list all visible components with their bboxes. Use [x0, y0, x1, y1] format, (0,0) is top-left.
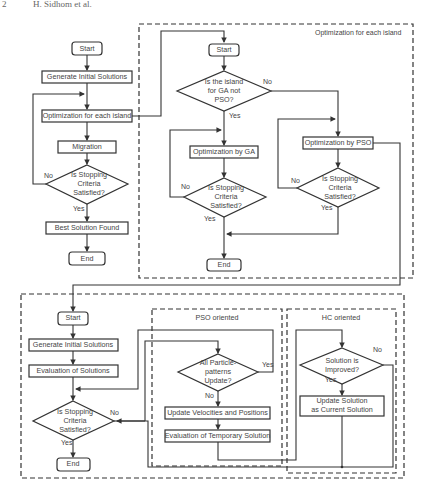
page-number: 2	[2, 0, 7, 9]
main-migration-label: Migration	[72, 142, 102, 151]
all-particles-text-1: All Particle-	[200, 358, 237, 367]
all-no-label: No	[205, 392, 214, 399]
island-panel-border	[139, 24, 413, 278]
island-end-label: End	[218, 260, 231, 269]
main-generate-label: Generate Initial Solutions	[47, 72, 128, 81]
island-start-label: Start	[216, 45, 231, 54]
hybrid-start-label: Start	[65, 313, 80, 322]
ga-stop-text-1: Is Stopping	[208, 183, 244, 192]
improved-yes-label: Yes	[325, 376, 337, 383]
pso-yes-label: Yes	[321, 204, 333, 211]
main-yes-label: Yes	[73, 205, 85, 212]
main-no-label: No	[44, 172, 53, 179]
hybrid-generate-label: Generate Initial Solutions	[33, 340, 114, 349]
main-optimize-label: Optimization for each island	[43, 111, 132, 120]
ga-no-label: No	[181, 183, 190, 190]
pso-stop-text-2: Criteria	[328, 183, 351, 192]
pso-opt-label: Optimization by PSO	[305, 138, 372, 147]
hybrid-stop-text-3: Satisfied?	[59, 425, 91, 434]
island-panel: Optimization for each island Start Is th…	[139, 24, 413, 280]
hybrid-stop-text-1: Is Stopping	[57, 407, 93, 416]
hybrid-stop-text-2: Criteria	[63, 416, 86, 425]
main-best-label: Best Solution Found	[55, 223, 120, 232]
improved-text-1: Solution is	[325, 356, 359, 365]
island-yes-label: Yes	[229, 112, 241, 119]
island-ga-text-2: for GA not	[208, 86, 240, 95]
island-ga-text-1: Is the island	[205, 77, 243, 86]
update-solution-text-1: Update Solution	[316, 396, 367, 405]
update-solution-text-2: as Current Solution	[311, 405, 373, 414]
ga-opt-label: Optimization by GA	[193, 147, 255, 156]
all-particles-text-2: patterns	[205, 367, 231, 376]
main-end-label: End	[81, 254, 94, 263]
hc-oriented-title: HC oriented	[322, 313, 360, 322]
pso-stop-text-1: Is Stopping	[322, 174, 358, 183]
update-velocities-label: Update Velocities and Positions	[167, 408, 268, 417]
ga-stop-text-3: Satisfied?	[210, 201, 242, 210]
ga-yes-label: Yes	[204, 215, 216, 222]
main-start-label: Start	[79, 44, 94, 53]
main-stop-text-2: Criteria	[77, 179, 100, 188]
hybrid-end-label: End	[67, 459, 80, 468]
improved-no-label: No	[373, 346, 382, 353]
island-panel-title: Optimization for each island	[315, 29, 401, 37]
all-yes-label: Yes	[262, 361, 274, 368]
pso-no-label: No	[291, 177, 300, 184]
pso-oriented-title: PSO oriented	[195, 313, 238, 322]
eval-temp-label: Evaluation of Temporary Solution	[165, 431, 270, 440]
pso-stop-text-3: Satisfied?	[324, 192, 356, 201]
island-no-label: No	[263, 78, 272, 85]
hybrid-yes-label: Yes	[61, 439, 73, 446]
main-stop-text-1: Is Stopping	[71, 170, 107, 179]
ga-stop-text-2: Criteria	[214, 192, 237, 201]
improved-text-2: Improved?	[325, 365, 359, 374]
island-ga-text-3: PSO?	[214, 95, 233, 104]
hybrid-no-label: No	[110, 409, 119, 416]
connector-to-hybrid	[73, 280, 400, 311]
hybrid-panel: Start Generate Initial Solutions Evaluat…	[21, 294, 404, 478]
main-stop-text-3: Satisfied?	[73, 188, 105, 197]
running-header: H. Sidhom et al.	[33, 0, 92, 9]
flowchart-diagram: 2 H. Sidhom et al. Start Generate Initia…	[0, 0, 427, 501]
hybrid-evaluate-label: Evaluation of Solutions	[36, 366, 110, 375]
all-particles-text-3: Update?	[204, 376, 231, 385]
